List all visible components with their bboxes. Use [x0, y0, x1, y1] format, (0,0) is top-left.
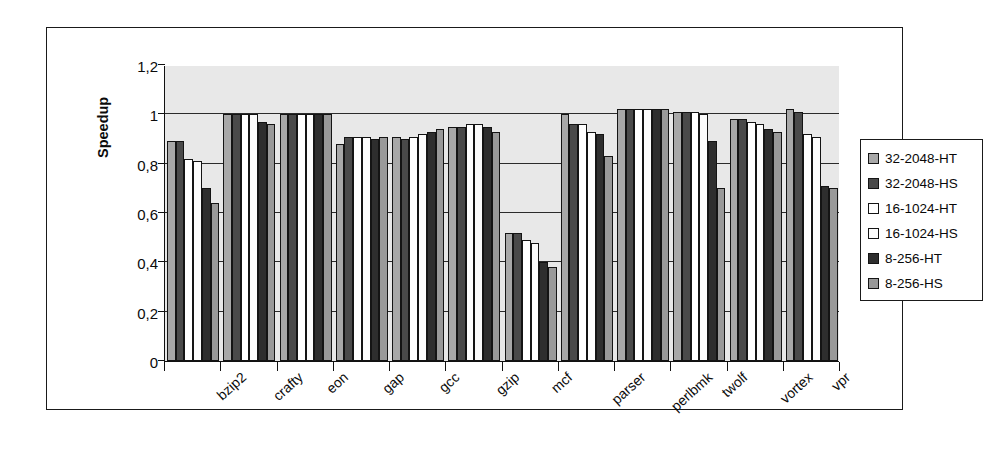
legend-item[interactable]: 8-256-HS: [868, 271, 977, 296]
bar: [756, 124, 765, 361]
bar: [682, 112, 691, 361]
bar: [794, 112, 803, 361]
legend-item-label: 16-1024-HS: [885, 227, 958, 241]
bar: [314, 114, 323, 361]
bar: [738, 119, 747, 361]
legend-item[interactable]: 8-256-HT: [868, 246, 977, 271]
bar: [587, 132, 596, 361]
y-axis-tick-label: 1,2: [137, 58, 158, 75]
bar: [202, 188, 211, 361]
bar: [457, 127, 466, 361]
x-axis-tick-labels: bzip2craftyeongapgccgzipmcfparserperlbmk…: [164, 369, 839, 431]
bar: [708, 141, 717, 361]
legend-swatch-icon: [868, 153, 879, 164]
legend-item[interactable]: 32-2048-HT: [868, 146, 977, 171]
bar-group: [671, 66, 727, 361]
bar: [764, 129, 773, 361]
x-axis-tick-label: gap: [379, 369, 407, 397]
bar: [673, 112, 682, 361]
bar: [280, 114, 289, 361]
bar-group: [728, 66, 784, 361]
bar-group: [503, 66, 559, 361]
bar: [539, 262, 548, 361]
x-axis-tick-label: eon: [323, 369, 351, 397]
legend-swatch-icon: [868, 203, 879, 214]
bar: [409, 137, 418, 361]
bar: [427, 132, 436, 361]
y-axis-tick: [158, 311, 165, 312]
bar: [652, 109, 661, 361]
bar: [267, 124, 276, 361]
bar: [773, 132, 782, 361]
x-axis-tick-label: gcc: [435, 369, 462, 395]
legend-swatch-icon: [868, 178, 879, 189]
bar: [448, 127, 457, 361]
bar-group: [165, 66, 221, 361]
bar: [596, 134, 605, 361]
bar-group: [446, 66, 502, 361]
y-axis-tick: [158, 212, 165, 213]
bar-groups: [165, 66, 839, 361]
y-axis-tick: [158, 261, 165, 262]
bar: [803, 134, 812, 361]
y-axis-tick: [158, 64, 165, 65]
bar: [634, 109, 643, 361]
bar: [617, 109, 626, 361]
y-axis-title: Speedup: [95, 97, 111, 158]
legend-swatch-icon: [868, 278, 879, 289]
bar: [699, 114, 708, 361]
bar: [661, 109, 670, 361]
bar: [505, 233, 514, 361]
legend-item-label: 32-2048-HT: [885, 152, 957, 166]
y-axis-tick-label: 1: [150, 107, 158, 124]
x-axis-tick-label: gzip: [492, 369, 522, 398]
x-axis-tick-label: vortex: [777, 369, 816, 406]
bar: [626, 109, 635, 361]
legend: 32-2048-HT32-2048-HS16-1024-HT16-1024-HS…: [860, 139, 983, 301]
bar: [522, 240, 531, 361]
x-axis-tick-label: bzip2: [213, 369, 249, 403]
bar: [474, 124, 483, 361]
y-axis-tick-label: 0,8: [137, 156, 158, 173]
bar: [483, 127, 492, 361]
bar: [167, 141, 176, 361]
bar: [436, 129, 445, 361]
bar: [258, 122, 267, 361]
bar: [829, 188, 838, 361]
bar: [747, 122, 756, 361]
bar: [531, 243, 540, 361]
bar: [730, 119, 739, 361]
bar: [492, 132, 501, 361]
bar: [379, 137, 388, 361]
bar-group: [615, 66, 671, 361]
bar: [466, 124, 475, 361]
bar: [418, 134, 427, 361]
bar: [336, 144, 345, 361]
bar-group: [278, 66, 334, 361]
legend-item[interactable]: 32-2048-HS: [868, 171, 977, 196]
x-axis-tick-label: twolf: [718, 369, 750, 400]
bar: [691, 112, 700, 361]
figure-frame: Speedup 1,210,80,60,40,20 bzip2craftyeon…: [46, 27, 903, 410]
bar: [184, 159, 193, 361]
legend-item-label: 32-2048-HS: [885, 177, 958, 191]
bar: [717, 188, 726, 361]
bar: [306, 114, 315, 361]
bar: [561, 114, 570, 361]
bar: [249, 114, 258, 361]
bar: [353, 137, 362, 361]
bar: [232, 114, 241, 361]
bar: [344, 137, 353, 361]
bar: [401, 139, 410, 361]
legend-item[interactable]: 16-1024-HS: [868, 221, 977, 246]
legend-item[interactable]: 16-1024-HT: [868, 196, 977, 221]
bar: [548, 267, 557, 361]
bar: [392, 137, 401, 361]
bar: [812, 137, 821, 361]
bar: [323, 114, 332, 361]
y-axis-tick-label: 0,6: [137, 206, 158, 223]
bar: [786, 109, 795, 361]
bar: [513, 233, 522, 361]
bar: [643, 109, 652, 361]
x-axis-tick-label: mcf: [548, 369, 575, 396]
